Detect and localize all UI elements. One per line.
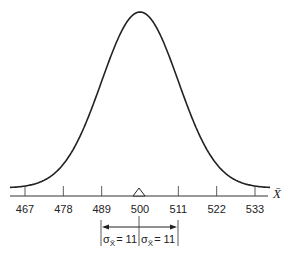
mean-marker-triangle [133,188,145,196]
x-tick-label: 489 [92,203,110,215]
right-arrowhead-icon [170,225,177,230]
x-tick-label: 522 [207,203,225,215]
right-sigma-label: σX̄= 11 [141,233,175,248]
x-tick-label: 478 [54,203,72,215]
normal-curve [10,12,270,187]
x-tick-label: 533 [246,203,264,215]
left-sigma-label: σX̄= 11 [103,233,137,248]
x-tick-label: 467 [16,203,34,215]
x-tick-label: 511 [170,203,188,215]
left-arrowhead-icon [102,225,109,230]
x-axis-label: X̄ [272,186,282,201]
x-tick-label: 500 [131,203,149,215]
normal-distribution-chart: 467478489500511522533 X̄ σX̄= 11 σX̄= 11 [0,0,297,256]
sigma-interval-annotation: σX̄= 11 σX̄= 11 [101,216,178,248]
